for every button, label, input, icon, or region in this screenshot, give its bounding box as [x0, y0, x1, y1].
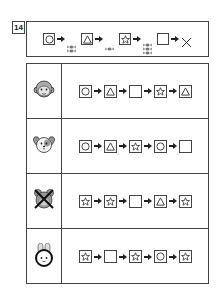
star-box [119, 33, 131, 45]
triangle-icon [83, 35, 92, 44]
rabbit-icon [33, 243, 55, 271]
triangle-box [104, 85, 117, 98]
star-icon [106, 197, 115, 206]
character-cell [27, 119, 62, 173]
circle-box [43, 33, 55, 45]
candy-icon [67, 39, 76, 43]
star-box [179, 195, 192, 208]
puzzle-table [26, 63, 209, 284]
triangle-icon [156, 197, 165, 206]
sequence-cell [62, 119, 208, 173]
question-number: 14 [12, 21, 25, 34]
arrow-right-icon [144, 142, 152, 150]
circle-box [154, 140, 167, 153]
table-row [27, 229, 208, 284]
circle-box [154, 250, 167, 263]
table-row [27, 174, 208, 229]
arrow-right-icon [94, 142, 102, 150]
arrow-right-icon [57, 35, 65, 43]
table-row [27, 64, 208, 119]
star-box [154, 85, 167, 98]
circle-box [79, 140, 92, 153]
legend-box [26, 21, 209, 57]
triangle-icon [106, 87, 115, 96]
arrow-right-icon [95, 35, 103, 43]
character-cell [27, 64, 62, 118]
star-box [79, 250, 92, 263]
triangle-box [154, 195, 167, 208]
arrow-right-icon [94, 197, 102, 205]
triangle-icon [106, 142, 115, 151]
monkey-icon [33, 78, 55, 104]
sequence-cell [62, 229, 208, 284]
circle-icon [81, 142, 90, 151]
candy-group [67, 35, 76, 43]
star-box [179, 250, 192, 263]
star-box [129, 140, 142, 153]
circle-icon [156, 142, 165, 151]
star-box [104, 195, 117, 208]
star-box [79, 195, 92, 208]
circle-icon [45, 35, 54, 44]
star-icon [181, 197, 190, 206]
arrow-right-icon [169, 142, 177, 150]
candy-group [143, 33, 152, 45]
triangle-box [179, 85, 192, 98]
circle-icon [81, 87, 90, 96]
arrow-right-icon [94, 253, 102, 261]
blank-box [129, 195, 142, 208]
arrow-right-icon [133, 35, 141, 43]
arrow-right-icon [144, 197, 152, 205]
arrow-right-icon [144, 87, 152, 95]
candy-group [105, 37, 114, 41]
star-icon [156, 87, 165, 96]
triangle-icon [181, 87, 190, 96]
arrow-right-icon [119, 197, 127, 205]
sequence-cell [62, 174, 208, 228]
triangle-box [104, 140, 117, 153]
arrow-right-icon [169, 253, 177, 261]
character-cell [27, 174, 62, 228]
arrow-right-icon [169, 197, 177, 205]
star-icon [81, 197, 90, 206]
star-icon [121, 35, 130, 44]
arrow-right-icon [94, 87, 102, 95]
arrow-right-icon [169, 87, 177, 95]
table-row [27, 119, 208, 174]
star-icon [81, 252, 90, 261]
blank-box [104, 250, 117, 263]
star-icon [131, 252, 140, 261]
arrow-right-icon [144, 253, 152, 261]
arrow-right-icon [119, 87, 127, 95]
star-icon [131, 142, 140, 151]
triangle-box [81, 33, 93, 45]
arrow-right-icon [119, 253, 127, 261]
candy-icon [143, 41, 152, 45]
dog-icon [33, 133, 55, 159]
star-box [129, 250, 142, 263]
circle-icon [156, 252, 165, 261]
sequence-cell [62, 64, 208, 118]
cross-icon [181, 34, 192, 45]
mouse-crossed-icon [33, 188, 55, 214]
character-cell [27, 229, 62, 284]
star-icon [181, 252, 190, 261]
candy-icon [105, 37, 114, 41]
arrow-right-icon [171, 35, 179, 43]
blank-box [129, 85, 142, 98]
circle-box [79, 85, 92, 98]
blank-box [157, 33, 169, 45]
blank-box [179, 140, 192, 153]
arrow-right-icon [119, 142, 127, 150]
